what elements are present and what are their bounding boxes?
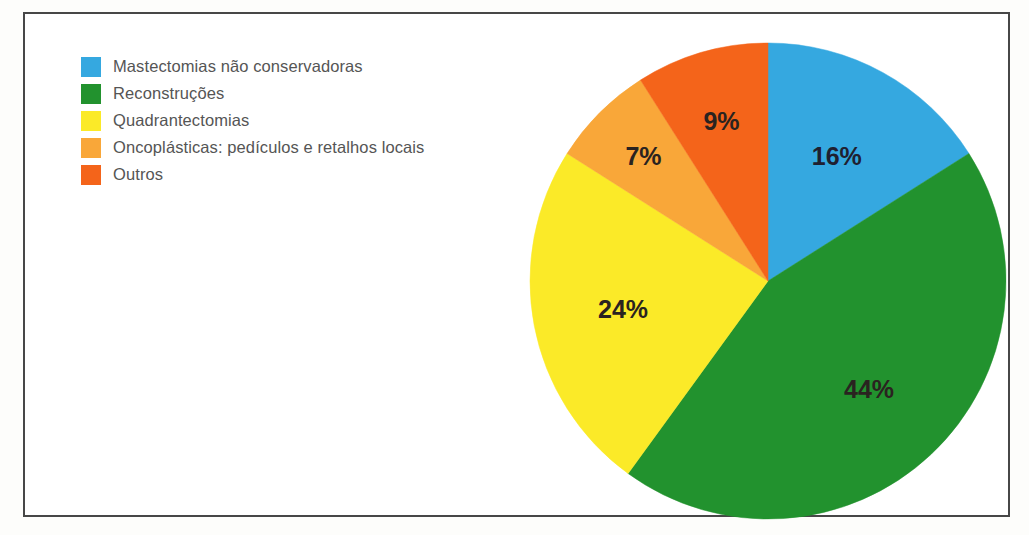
pie-data-label: 44% — [844, 375, 894, 403]
legend-swatch-icon-outros — [81, 165, 101, 185]
pie-data-label: 9% — [703, 107, 739, 135]
legend-label-outros: Outros — [113, 165, 163, 184]
pie-data-label: 24% — [598, 295, 648, 323]
figure-canvas: Mastectomias não conservadoras Reconstru… — [0, 0, 1029, 535]
legend-item-reconstrucoes[interactable]: Reconstruções — [81, 80, 511, 107]
pie-chart: 16%44%24%7%9% — [525, 42, 1011, 520]
legend-label-quadrantectomias: Quadrantectomias — [113, 111, 249, 130]
legend-swatch-icon-reconstrucoes — [81, 84, 101, 104]
legend-swatch-icon-oncoplasticas — [81, 138, 101, 158]
legend-item-quadrantectomias[interactable]: Quadrantectomias — [81, 107, 511, 134]
pie-data-label: 7% — [625, 142, 661, 170]
legend-swatch-icon-mastectomias — [81, 57, 101, 77]
legend-label-oncoplasticas: Oncoplásticas: pedículos e retalhos loca… — [113, 138, 424, 157]
pie-data-label: 16% — [812, 142, 862, 170]
chart-legend: Mastectomias não conservadoras Reconstru… — [81, 53, 511, 188]
legend-item-mastectomias[interactable]: Mastectomias não conservadoras — [81, 53, 511, 80]
chart-frame-border: Mastectomias não conservadoras Reconstru… — [23, 12, 1010, 517]
legend-item-oncoplasticas[interactable]: Oncoplásticas: pedículos e retalhos loca… — [81, 134, 511, 161]
legend-swatch-icon-quadrantectomias — [81, 111, 101, 131]
legend-label-mastectomias: Mastectomias não conservadoras — [113, 57, 363, 76]
pie-slice-group — [530, 43, 1006, 519]
legend-item-outros[interactable]: Outros — [81, 161, 511, 188]
legend-label-reconstrucoes: Reconstruções — [113, 84, 224, 103]
